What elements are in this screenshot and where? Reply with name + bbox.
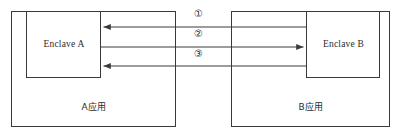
flow-3-step-label: ③ [194, 49, 203, 59]
flow-2-step-label: ② [194, 29, 203, 39]
enclave-communication-diagram: Enclave A Enclave B A应用 B应用 ① ② ③ [0, 0, 402, 136]
diagram-canvas [0, 0, 402, 136]
app-a-label: A应用 [11, 100, 177, 113]
flow-1-step-label: ① [194, 9, 203, 19]
app-b-label: B应用 [231, 100, 391, 113]
enclave-b-label: Enclave B [306, 39, 381, 49]
enclave-a-label: Enclave A [26, 39, 102, 49]
